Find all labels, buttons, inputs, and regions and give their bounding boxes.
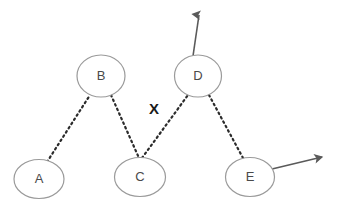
node-layer: A B C D E: [14, 55, 275, 199]
edge-a-b: [47, 95, 90, 162]
node-b[interactable]: B: [77, 55, 125, 97]
edge-layer: [47, 95, 243, 162]
edge-b-c: [111, 95, 139, 158]
node-a[interactable]: A: [14, 160, 64, 199]
node-a-label: A: [35, 171, 44, 186]
node-c-label: C: [135, 169, 144, 184]
arrow-from-d-up: [193, 15, 199, 56]
edge-d-e: [209, 95, 243, 158]
node-d[interactable]: D: [175, 55, 222, 97]
marker-layer: X: [149, 100, 159, 117]
diagram-canvas: A B C D E X: [0, 0, 340, 211]
node-c[interactable]: C: [115, 158, 166, 197]
arrow-from-e-right: [272, 157, 322, 169]
x-marker-label: X: [149, 100, 159, 117]
node-link-diagram: A B C D E X: [0, 0, 340, 211]
node-d-label: D: [193, 68, 202, 83]
node-e-label: E: [246, 169, 255, 184]
node-e[interactable]: E: [226, 158, 275, 197]
node-b-label: B: [97, 68, 106, 83]
